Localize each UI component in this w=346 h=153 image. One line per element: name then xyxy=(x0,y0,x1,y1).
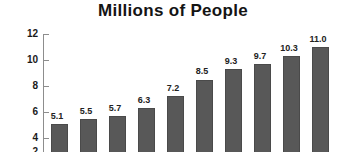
bar-9 xyxy=(283,56,300,152)
chart-screenshot: Millions of People 12 10 8 6 4 2 5.1 5.5… xyxy=(0,0,346,152)
bar-4 xyxy=(138,108,155,152)
bar-3 xyxy=(109,116,126,152)
y-tick-mark-12 xyxy=(44,34,49,35)
bar-label-3: 5.7 xyxy=(102,104,128,113)
y-tick-mark-10 xyxy=(44,60,49,61)
y-tick-label-4: 4 xyxy=(14,133,38,143)
bar-7 xyxy=(225,69,242,152)
bar-2 xyxy=(80,119,97,153)
bar-1 xyxy=(51,124,68,152)
y-tick-mark-8 xyxy=(44,86,49,87)
y-tick-label-2: 2 xyxy=(14,147,38,152)
y-tick-label-10: 10 xyxy=(14,55,38,65)
bar-label-4: 6.3 xyxy=(131,96,157,105)
plot-area: 12 10 8 6 4 2 5.1 5.5 5.7 6.3 7.2 8.5 9.… xyxy=(0,0,346,152)
y-tick-label-6: 6 xyxy=(14,107,38,117)
y-tick-label-8: 8 xyxy=(14,81,38,91)
bar-label-6: 8.5 xyxy=(189,67,215,76)
y-axis-line xyxy=(43,34,44,152)
bar-6 xyxy=(196,80,213,153)
bar-label-8: 9.7 xyxy=(247,52,273,61)
bar-10 xyxy=(312,47,329,152)
bar-label-9: 10.3 xyxy=(276,44,302,53)
y-tick-label-12: 12 xyxy=(14,29,38,39)
bar-label-1: 5.1 xyxy=(44,112,70,121)
y-tick-mark-4 xyxy=(44,138,49,139)
bar-label-2: 5.5 xyxy=(73,107,99,116)
bar-8 xyxy=(254,64,271,152)
bar-label-5: 7.2 xyxy=(160,84,186,93)
bar-5 xyxy=(167,96,184,152)
bar-label-10: 11.0 xyxy=(305,35,331,44)
bar-label-7: 9.3 xyxy=(218,57,244,66)
